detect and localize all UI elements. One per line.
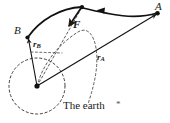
caption-footnote-mark: * (116, 100, 121, 109)
trajectory-a-to-apex (83, 8, 157, 16)
position-vector-rA (37, 15, 156, 87)
earth-center-dot (34, 83, 39, 88)
label-the-earth: The earth (63, 100, 105, 111)
label-point-a: A (155, 1, 162, 12)
transfer-orbit-dashed-arc (37, 30, 97, 104)
dashed-rb-guide (31, 52, 62, 53)
point-b-dot (25, 35, 29, 39)
label-radius-a: rA (97, 53, 105, 63)
label-radius-a-subscript: A (101, 55, 105, 62)
orbit-transfer-figure: A B F rB rA The earth * (0, 0, 170, 123)
label-radius-b-subscript: B (37, 42, 41, 49)
apex-point-dot (80, 5, 84, 9)
label-point-b: B (14, 25, 21, 36)
label-radius-b: rB (33, 40, 41, 50)
label-force-f: F (73, 19, 80, 30)
